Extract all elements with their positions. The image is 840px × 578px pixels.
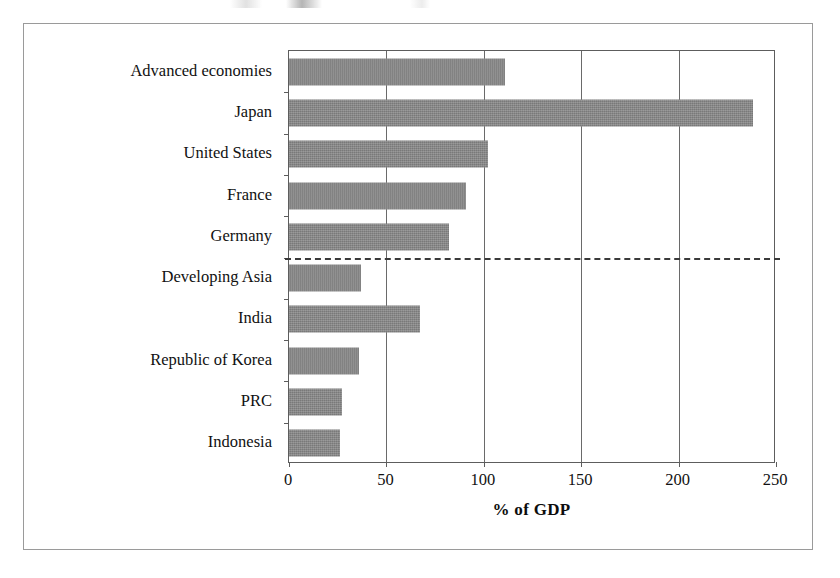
x-tick-label: 100 — [470, 470, 495, 490]
y-tick-mark — [284, 92, 289, 93]
y-tick-mark — [284, 216, 289, 217]
bar — [289, 389, 342, 416]
x-tick-mark — [289, 462, 290, 467]
x-tick-label: 250 — [763, 470, 788, 490]
bar — [289, 223, 449, 250]
category-label: Japan — [234, 104, 272, 121]
x-tick-label: 50 — [377, 470, 394, 490]
category-label: Germany — [211, 228, 272, 245]
bar — [289, 182, 466, 209]
category-label: Republic of Korea — [150, 352, 272, 369]
group-divider-line — [285, 258, 780, 260]
x-tick-mark — [776, 462, 777, 467]
bar — [289, 430, 340, 457]
value-axis-tick-labels: 050100150200250 — [288, 470, 775, 494]
bar — [289, 99, 753, 126]
x-tick-mark — [679, 462, 680, 467]
x-tick-mark — [484, 462, 485, 467]
bar — [289, 141, 488, 168]
y-tick-mark — [284, 175, 289, 176]
bar — [289, 265, 361, 292]
x-tick-mark — [581, 462, 582, 467]
category-label: United States — [184, 145, 272, 162]
category-label: France — [227, 186, 272, 203]
x-axis-title: % of GDP — [288, 500, 775, 520]
category-label: Indonesia — [208, 434, 272, 451]
y-tick-mark — [284, 423, 289, 424]
category-label: India — [238, 310, 272, 327]
y-tick-mark — [284, 134, 289, 135]
plot-area — [288, 50, 775, 463]
y-tick-mark — [284, 340, 289, 341]
category-axis-labels: Advanced economiesJapanUnited StatesFran… — [40, 50, 280, 463]
x-tick-label: 150 — [568, 470, 593, 490]
category-label: Developing Asia — [162, 269, 272, 286]
x-tick-mark — [386, 462, 387, 467]
bar-chart: Advanced economiesJapanUnited StatesFran… — [0, 0, 840, 578]
y-tick-mark — [284, 381, 289, 382]
bar — [289, 306, 420, 333]
y-tick-mark — [284, 299, 289, 300]
category-label: PRC — [241, 393, 272, 410]
category-label: Advanced economies — [130, 62, 272, 79]
x-tick-label: 200 — [665, 470, 690, 490]
bar — [289, 58, 505, 85]
x-tick-label: 0 — [284, 470, 292, 490]
bar — [289, 347, 359, 374]
